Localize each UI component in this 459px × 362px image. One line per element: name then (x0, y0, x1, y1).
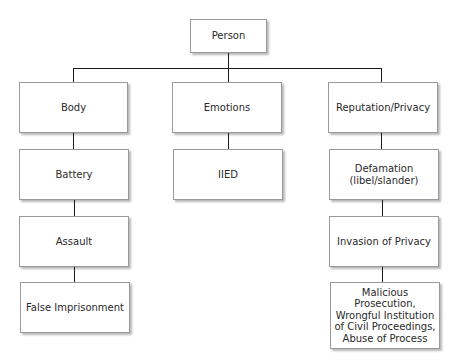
node-label-line: (libel/slander) (349, 175, 418, 187)
node-defamation: Defamation (libel/slander) (329, 149, 439, 200)
connector-body (73, 68, 74, 82)
connector-root (228, 52, 229, 68)
node-label: Assault (56, 236, 92, 248)
connector-emotions-iied (228, 132, 229, 149)
node-iied: IIED (173, 149, 283, 200)
connector-reputation-defamation (381, 132, 382, 149)
node-label: Battery (55, 169, 92, 181)
node-emotions: Emotions (172, 82, 282, 133)
node-label-line: Malicious Prosecution, (333, 287, 437, 310)
node-malicious-prosecution: Malicious Prosecution, Wrongful Institut… (330, 282, 440, 349)
node-invasion-of-privacy: Invasion of Privacy (329, 216, 439, 267)
node-body: Body (19, 82, 128, 133)
node-label: Body (61, 102, 86, 114)
node-label-line: Abuse of Process (343, 333, 428, 345)
connector-emotions (228, 68, 229, 82)
node-label: Person (212, 30, 246, 42)
node-label: Emotions (204, 102, 251, 114)
connector-body-battery (73, 132, 74, 149)
node-reputation-privacy: Reputation/Privacy (328, 82, 438, 133)
connector-reputation (381, 68, 382, 82)
connector-assault-false-imprisonment (74, 266, 75, 282)
node-label: Reputation/Privacy (336, 102, 430, 114)
node-assault: Assault (19, 216, 129, 267)
connector-invasion-malicious (382, 266, 383, 282)
node-label: False Imprisonment (26, 302, 124, 314)
node-label: Invasion of Privacy (337, 236, 431, 248)
node-false-imprisonment: False Imprisonment (20, 282, 130, 333)
node-battery: Battery (19, 149, 129, 200)
node-label-line: Defamation (355, 163, 414, 175)
node-person: Person (190, 19, 267, 53)
node-label: IIED (218, 169, 238, 181)
connector-battery-assault (74, 199, 75, 216)
node-label-line: Wrongful Institution (336, 310, 435, 322)
connector-defamation-invasion (382, 199, 383, 216)
node-label-line: of Civil Proceedings, (334, 321, 435, 333)
